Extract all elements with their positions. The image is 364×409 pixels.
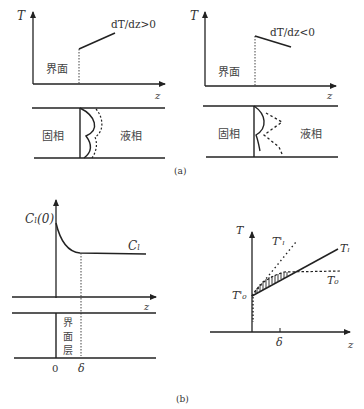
liquid-phase-label: 液相: [300, 127, 322, 141]
layer-label-1: 界: [63, 317, 73, 328]
origin-label: 0: [52, 363, 58, 374]
dashed-profile: [264, 113, 282, 154]
z-axis-label: z: [143, 301, 150, 312]
constitutional-supercooling-hatch: [257, 272, 287, 293]
gradient-label: dT/dz>0: [111, 18, 156, 30]
panel-a-right: T z dT/dz<0 界面 固相 液相: [190, 9, 338, 157]
tl-line: [252, 249, 338, 296]
layer-label-3: 层: [63, 345, 73, 356]
z-axis-label: z: [326, 90, 333, 101]
caption-b: (b): [176, 394, 189, 404]
layer-label-2: 面: [63, 331, 73, 342]
solid-phase-label: 固相: [218, 128, 240, 141]
t-axis-label: T: [190, 9, 199, 23]
t-axis-label: T: [236, 224, 245, 237]
z-axis-label: z: [347, 339, 354, 350]
t0-label: T₀: [327, 274, 339, 287]
interface-label: 界面: [218, 66, 240, 79]
t-axis-label: T: [17, 9, 26, 23]
panel-b-left: z Cₗ(0) Cₗ 界 面 层 0 δ: [12, 200, 156, 375]
z-axis-label: z: [154, 90, 161, 101]
interface-label: 界面: [46, 63, 68, 76]
tl-label: Tₗ: [340, 242, 350, 255]
solid-phase-label: 固相: [42, 130, 64, 143]
panel-b-right: T z δ T'ₗ Tₗ T₀ T'₀: [210, 224, 354, 350]
delta-label: δ: [276, 336, 283, 349]
tl-prime-line: [252, 242, 296, 296]
solid-profile: [254, 106, 264, 151]
t0-prime-label: T'₀: [232, 289, 247, 302]
temperature-line: [79, 33, 115, 49]
panel-a-left: T z dT/dz>0 界面 固相 液相: [17, 9, 165, 158]
cl-label: Cₗ: [128, 239, 140, 253]
caption-a: (a): [174, 166, 186, 176]
figure: T z dT/dz>0 界面 固相 液相 T z dT/dz<0 界面 固相 液…: [0, 0, 364, 409]
gradient-label: dT/dz<0: [270, 26, 315, 38]
cl0-label: Cₗ(0): [25, 212, 54, 226]
liquid-phase-label: 液相: [120, 129, 142, 143]
tl-prime-label: T'ₗ: [272, 235, 285, 248]
delta-label: δ: [78, 362, 85, 375]
solid-profile: [80, 108, 95, 158]
dashed-profile: [92, 109, 102, 158]
